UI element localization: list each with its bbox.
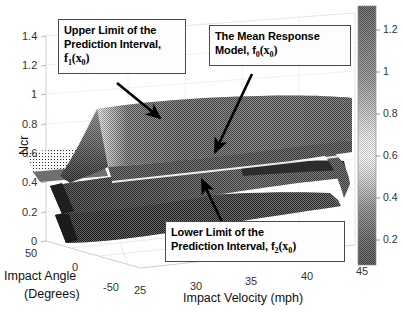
colorbar-tick-0-6: 0.6 bbox=[383, 150, 398, 161]
colorbar-tick-1-2: 1.2 bbox=[383, 24, 398, 35]
callout-lower-limit: Lower Limit of the Prediction Interval, … bbox=[165, 221, 345, 262]
z-tick-0: 0 bbox=[31, 236, 37, 247]
callout-upper-limit-line1: Upper Limit of the bbox=[64, 23, 180, 37]
callout-upper-limit-formula: f1(x0) bbox=[64, 51, 180, 69]
callout-upper-limit: Upper Limit of the Prediction Interval, … bbox=[58, 19, 186, 74]
x-tick-40: 40 bbox=[301, 271, 313, 282]
y-tick-neg50: -50 bbox=[103, 282, 119, 293]
y-axis-label-line1: Impact Angle bbox=[4, 270, 76, 283]
callout-upper-limit-line2: Prediction Interval, bbox=[64, 37, 180, 51]
colorbar-tick-1: 1 bbox=[383, 66, 389, 77]
z-tick-1-2: 1.2 bbox=[22, 60, 37, 71]
colorbar-ticks bbox=[376, 30, 380, 240]
z-tick-1: 1 bbox=[31, 89, 37, 100]
colorbar-tick-0-8: 0.8 bbox=[383, 108, 398, 119]
colorbar-tick-0-4: 0.4 bbox=[383, 192, 398, 203]
callout-lower-limit-line1: Lower Limit of the bbox=[171, 225, 339, 239]
callout-mean-response-formula: Model, f0(x0) bbox=[215, 43, 345, 61]
x-axis-label: Impact Velocity (mph) bbox=[183, 292, 303, 305]
colorbar bbox=[358, 6, 380, 265]
z-tick-0-8: 0.8 bbox=[22, 119, 37, 130]
y-axis-label-line2: (Degrees) bbox=[24, 288, 80, 301]
z-tick-1-4: 1.4 bbox=[22, 31, 37, 42]
z-tick-0-4: 0.4 bbox=[22, 177, 37, 188]
z-axis-ticks bbox=[41, 36, 46, 242]
z-tick-0-2: 0.2 bbox=[22, 207, 37, 218]
y-tick-50: 50 bbox=[25, 248, 37, 259]
x-tick-35: 35 bbox=[245, 276, 257, 287]
z-axis-label: Ncr bbox=[18, 136, 31, 155]
x-tick-25: 25 bbox=[134, 285, 146, 296]
x-tick-45: 45 bbox=[356, 266, 368, 277]
callout-mean-response: The Mean Response Model, f0(x0) bbox=[209, 25, 351, 66]
callout-lower-limit-formula: Prediction Interval, f2(x0) bbox=[171, 239, 339, 257]
colorbar-tick-0-2: 0.2 bbox=[383, 234, 398, 245]
callout-mean-response-line1: The Mean Response bbox=[215, 29, 345, 43]
